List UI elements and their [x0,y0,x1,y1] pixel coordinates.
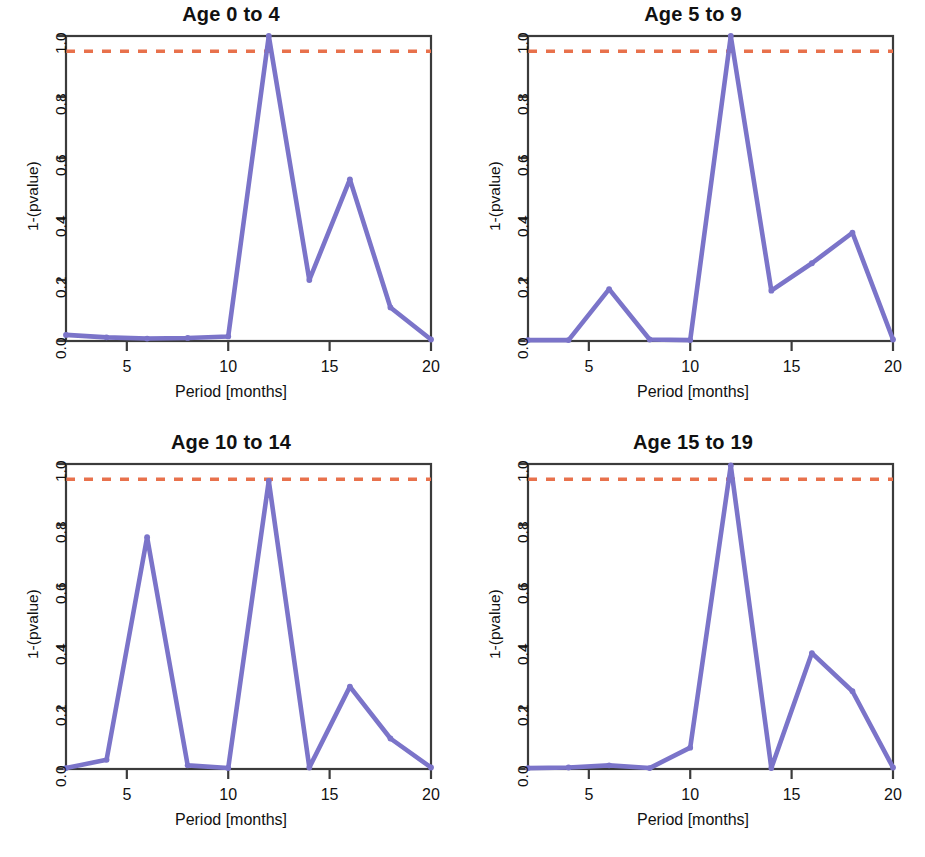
data-point [687,745,693,751]
x-tick-label: 10 [219,786,237,804]
data-point [606,762,612,768]
data-point [890,337,896,343]
data-point [225,765,231,771]
data-point [566,765,572,771]
data-series-line [528,36,893,340]
data-point [728,33,734,39]
y-tick-label: 0.0 [52,765,70,787]
panel-age-5-to-9: Age 5 to 90.00.20.40.60.81.01-(pvalue)51… [462,0,924,428]
y-tick-label: 0.0 [514,765,532,787]
data-point [809,260,815,266]
x-tick-label: 5 [584,786,593,804]
data-point [388,305,394,311]
x-tick-label: 15 [783,358,801,376]
x-tick-label: 15 [321,786,339,804]
x-tick-label: 5 [584,358,593,376]
data-point [185,335,191,341]
data-point [566,337,572,343]
data-point [606,286,612,292]
y-tick-label: 0.4 [52,643,70,665]
y-tick-label: 0.6 [52,582,70,604]
y-tick-label: 0.0 [514,337,532,359]
x-tick-label: 20 [422,358,440,376]
y-tick-label: 0.4 [514,643,532,665]
y-tick-label: 1.0 [514,460,532,482]
x-tick-label: 5 [122,786,131,804]
y-axis-label: 1-(pvalue) [486,161,504,231]
data-point [850,230,856,236]
y-tick-label: 0.6 [514,154,532,176]
data-point [890,765,896,771]
data-point [768,288,774,294]
y-tick-label: 0.8 [514,93,532,115]
y-tick-label: 0.8 [52,521,70,543]
x-axis-label: Period [months] [0,383,462,401]
y-tick-label: 0.8 [52,93,70,115]
x-tick-label: 15 [783,786,801,804]
y-tick-label: 1.0 [52,460,70,482]
x-axis-label: Period [months] [462,383,924,401]
data-point [306,277,312,283]
y-tick-label: 0.8 [514,521,532,543]
x-tick-label: 20 [422,786,440,804]
y-tick-label: 1.0 [514,32,532,54]
panel-age-15-to-19: Age 15 to 190.00.20.40.60.81.01-(pvalue)… [462,428,924,856]
data-point [728,463,734,469]
y-tick-label: 0.4 [514,215,532,237]
data-point [768,765,774,771]
y-tick-label: 1.0 [52,32,70,54]
data-point [104,757,110,763]
x-tick-label: 10 [219,358,237,376]
y-axis-label: 1-(pvalue) [24,589,42,659]
figure-canvas: Age 0 to 40.00.20.40.60.81.01-(pvalue)51… [0,0,925,857]
data-point [225,334,231,340]
y-tick-label: 0.0 [52,337,70,359]
x-tick-label: 20 [884,358,902,376]
data-point [144,336,150,342]
data-point [144,534,150,540]
y-tick-label: 0.6 [514,582,532,604]
data-point [687,337,693,343]
data-point [347,176,353,182]
x-tick-label: 15 [321,358,339,376]
panel-age-10-to-14: Age 10 to 140.00.20.40.60.81.01-(pvalue)… [0,428,462,856]
data-series-line [66,481,431,768]
x-tick-label: 20 [884,786,902,804]
y-tick-label: 0.2 [514,276,532,298]
y-axis-label: 1-(pvalue) [24,161,42,231]
data-point [185,762,191,768]
data-point [104,334,110,340]
x-axis-label: Period [months] [0,811,462,829]
data-point [647,765,653,771]
y-tick-label: 0.2 [52,276,70,298]
x-tick-label: 10 [681,786,699,804]
data-point [266,33,272,39]
data-point [428,765,434,771]
data-point [850,688,856,694]
data-point [809,650,815,656]
y-axis-label: 1-(pvalue) [486,589,504,659]
data-point [647,337,653,343]
data-point [306,765,312,771]
data-point [266,478,272,484]
data-point [388,736,394,742]
y-tick-label: 0.2 [514,704,532,726]
y-tick-label: 0.4 [52,215,70,237]
data-point [428,337,434,343]
data-point [347,684,353,690]
panel-age-0-to-4: Age 0 to 40.00.20.40.60.81.01-(pvalue)51… [0,0,462,428]
x-tick-label: 10 [681,358,699,376]
data-series-line [528,466,893,769]
data-series-line [66,36,431,339]
x-axis-label: Period [months] [462,811,924,829]
y-tick-label: 0.6 [52,154,70,176]
x-tick-label: 5 [122,358,131,376]
y-tick-label: 0.2 [52,704,70,726]
